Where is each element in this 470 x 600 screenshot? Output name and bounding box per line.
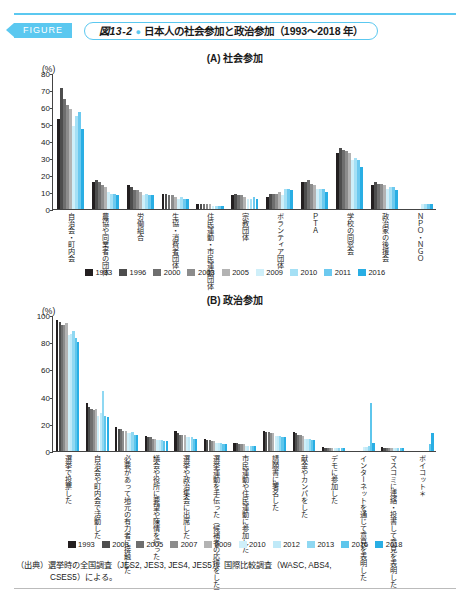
legend-swatch xyxy=(153,269,161,276)
bar xyxy=(256,199,259,209)
legend-label: 2003 xyxy=(112,540,129,549)
bar xyxy=(325,192,328,209)
y-tick-mark xyxy=(50,74,53,75)
x-category-label: ボランティア団体 xyxy=(276,213,284,269)
legend-swatch xyxy=(187,269,195,276)
legend-item: 2005 xyxy=(136,540,163,549)
legend-item: 2016 xyxy=(358,268,385,277)
legend-item: 2009 xyxy=(204,540,231,549)
y-tick-label: 40 xyxy=(41,393,50,402)
bar xyxy=(77,342,79,451)
bar xyxy=(360,167,363,210)
y-tick-mark xyxy=(50,159,53,160)
legend-label: 2016 xyxy=(352,540,369,549)
x-category-label: デモに参加した xyxy=(330,455,338,504)
bar xyxy=(290,190,293,209)
source-line-1: （出典）選挙時の全国調査（JES2, JES3, JES4, JES5）、国際比… xyxy=(16,560,456,572)
y-tick-mark xyxy=(50,176,53,177)
legend-swatch xyxy=(273,541,281,548)
panel-a-title: (A) 社会参加 xyxy=(0,50,470,65)
y-tick-mark xyxy=(50,210,53,211)
x-category-label: ＮＰＯ・ＮＧＯ xyxy=(415,213,423,262)
legend-label: 2016 xyxy=(368,268,385,277)
legend-item: 2003 xyxy=(102,540,129,549)
legend-item: 2010 xyxy=(290,268,317,277)
y-tick-label: 80 xyxy=(41,70,50,79)
x-category-label: 必要があって地元の有力者に接触した xyxy=(123,455,131,541)
bar xyxy=(431,433,433,451)
legend-label: 2009 xyxy=(215,540,232,549)
y-tick-label: 60 xyxy=(41,104,50,113)
legend-swatch xyxy=(256,269,264,276)
legend-label: 2005 xyxy=(146,540,163,549)
legend-label: 2010 xyxy=(249,540,266,549)
x-category-label: 住民運動・市民運動団体 xyxy=(206,213,214,269)
bar xyxy=(195,439,197,451)
source-line-2: CSES5）による。 xyxy=(50,572,456,584)
legend-label: 2005 xyxy=(232,268,249,277)
y-tick-label: 50 xyxy=(41,121,50,130)
bar xyxy=(186,199,189,209)
legend-swatch xyxy=(119,269,127,276)
x-category-label: 宗教団体 xyxy=(241,213,249,241)
x-category-label: 選挙運動を手伝った（候補者の応援をした） xyxy=(211,455,219,541)
legend-label: 2007 xyxy=(181,540,198,549)
legend-swatch xyxy=(170,541,178,548)
legend-swatch xyxy=(239,541,247,548)
legend-label: 1993 xyxy=(95,268,112,277)
legend-swatch xyxy=(290,269,298,276)
figure-title-text: 日本人の社会参加と政治参加（1993〜2018 年） xyxy=(144,25,364,37)
panel-b-plot: 020406080100選挙で投票した自治会や町内会で活動した必要があって地元の… xyxy=(52,316,436,452)
legend-item: 2012 xyxy=(273,540,300,549)
x-category-label: ＰＴＡ xyxy=(311,213,319,234)
y-tick-mark xyxy=(50,108,53,109)
y-tick-mark xyxy=(50,316,53,317)
bar xyxy=(81,129,84,209)
panel-a-plot: 01020304050607080自治会・町内会農協や同業者の団体労働組合生協・… xyxy=(52,74,436,210)
legend-swatch xyxy=(204,541,212,548)
legend-label: 2000 xyxy=(164,268,181,277)
legend-swatch xyxy=(324,269,332,276)
legend-label: 2003 xyxy=(198,268,215,277)
x-category-label: 生協・消費者団体 xyxy=(171,213,179,269)
bar xyxy=(402,448,404,451)
y-tick-label: 20 xyxy=(41,420,50,429)
bar xyxy=(284,437,286,451)
x-category-label: 市民運動や住民運動に参加した xyxy=(241,455,249,541)
x-category-label: 議会や役所に要望や陳情を行った xyxy=(152,455,160,541)
y-tick-label: 80 xyxy=(41,339,50,348)
y-tick-label: 30 xyxy=(41,155,50,164)
bar xyxy=(254,446,256,451)
legend-item: 2010 xyxy=(239,540,266,549)
x-category-label: ボイコット＊ xyxy=(418,455,426,497)
legend-item: 1993 xyxy=(85,268,112,277)
y-tick-mark xyxy=(50,142,53,143)
legend-label: 2018 xyxy=(386,540,403,549)
legend-label: 2013 xyxy=(317,540,334,549)
bar xyxy=(151,195,154,209)
y-tick-mark xyxy=(50,398,53,399)
panel-a-legend: 199319962000200320052009201020112016 xyxy=(0,268,470,277)
legend-swatch xyxy=(358,269,366,276)
bar xyxy=(313,440,315,451)
panel-b-title: (B) 政治参加 xyxy=(0,292,470,307)
x-category-label: 政治家の後援会 xyxy=(381,213,389,262)
bullet-icon: ● xyxy=(135,27,140,37)
legend-item: 2007 xyxy=(170,540,197,549)
bar xyxy=(221,206,224,209)
legend-swatch xyxy=(375,541,383,548)
x-category-label: 献金やカンパをした xyxy=(300,455,308,518)
bar xyxy=(225,444,227,451)
figure-title: 図13-2 ● 日本人の社会参加と政治参加（1993〜2018 年） xyxy=(84,22,378,40)
legend-swatch xyxy=(341,541,349,548)
x-category-label: 選挙や政治集会に出席した xyxy=(182,455,190,539)
y-tick-mark xyxy=(50,370,53,371)
y-tick-label: 20 xyxy=(41,172,50,181)
y-tick-label: 100 xyxy=(37,312,50,321)
legend-item: 2018 xyxy=(375,540,402,549)
legend-item: 2009 xyxy=(256,268,283,277)
legend-label: 1993 xyxy=(78,540,95,549)
y-tick-mark xyxy=(50,91,53,92)
y-tick-label: 60 xyxy=(41,366,50,375)
x-category-label: 農協や同業者の団体 xyxy=(101,213,109,269)
